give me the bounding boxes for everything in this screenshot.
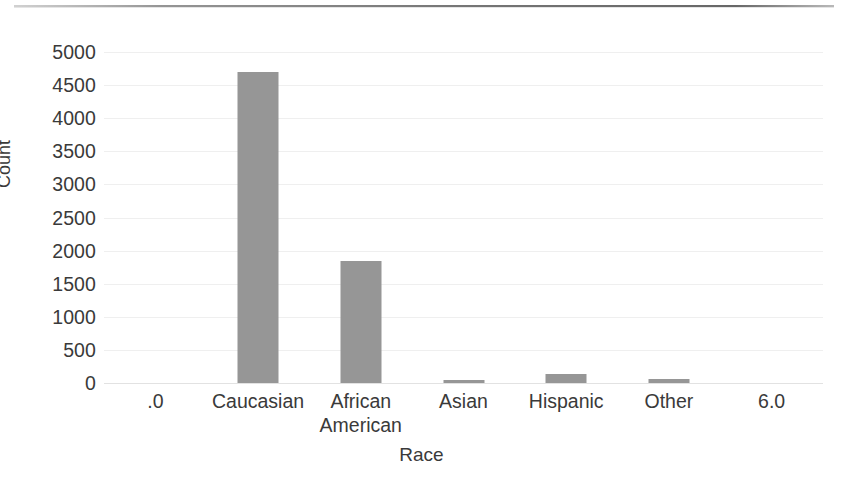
y-tick-label: 0: [24, 374, 96, 393]
y-tick-label: 3000: [24, 175, 96, 194]
y-axis-tick-labels: 5000450040003500300025002000150010005000: [14, 52, 96, 383]
x-tick-label-line: Other: [645, 390, 694, 412]
y-tick-label: 500: [24, 340, 96, 359]
bar: [238, 72, 279, 383]
x-tick-label: .0: [147, 389, 163, 413]
y-tick-label: 2500: [24, 208, 96, 227]
x-tick-label-line: .0: [147, 390, 163, 412]
x-tick-label: Other: [645, 389, 694, 413]
y-tick-label: 1500: [24, 274, 96, 293]
x-tick-label: Caucasian: [212, 389, 304, 413]
y-axis-title: Count: [0, 140, 15, 188]
bar: [648, 379, 689, 383]
gridline: [104, 383, 823, 384]
chart-page: Count 5000450040003500300025002000150010…: [0, 0, 843, 479]
bar: [340, 261, 381, 383]
plot-area: [104, 52, 823, 383]
x-tick-label-line: African: [330, 390, 391, 412]
x-axis-title: Race: [0, 444, 843, 466]
x-tick-label-line: Hispanic: [529, 390, 604, 412]
x-axis-tick-labels: .0CaucasianAfricanAmericanAsianHispanicO…: [104, 389, 823, 441]
y-tick-label: 2000: [24, 241, 96, 260]
bar: [443, 380, 484, 383]
x-tick-label-line: Caucasian: [212, 390, 304, 412]
bar: [546, 374, 587, 383]
x-tick-label: 6.0: [758, 389, 785, 413]
x-tick-label-line: Asian: [439, 390, 488, 412]
x-tick-label: Asian: [439, 389, 488, 413]
bar-series: [104, 52, 823, 383]
y-tick-label: 1000: [24, 307, 96, 326]
x-tick-label: Hispanic: [529, 389, 604, 413]
x-tick-label: AfricanAmerican: [320, 389, 402, 437]
y-tick-label: 4000: [24, 109, 96, 128]
scan-artifact-line-secondary: [14, 7, 834, 8]
x-tick-label-line: 6.0: [758, 390, 785, 412]
y-tick-label: 3500: [24, 142, 96, 161]
y-tick-label: 5000: [24, 43, 96, 62]
y-tick-label: 4500: [24, 76, 96, 95]
x-tick-label-line: American: [320, 413, 402, 437]
